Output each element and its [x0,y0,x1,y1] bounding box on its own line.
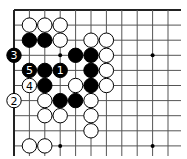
stone-disc [53,109,67,123]
star-point [58,144,62,148]
stone-disc [84,78,98,92]
stone-disc [99,78,113,92]
stone-disc [84,48,98,62]
star-point [58,53,62,57]
stone-disc [22,139,36,153]
white-stone [38,18,52,32]
black-stone: 3 [7,48,21,62]
white-stone [38,109,52,123]
white-stone [84,124,98,138]
move-number-label: 3 [11,49,18,62]
stone-disc [68,78,82,92]
stone-disc [99,63,113,77]
move-number-label: 2 [11,95,18,108]
white-stone: 2 [7,93,21,107]
stone-disc [84,63,98,77]
black-stone [53,93,67,107]
white-stone [84,93,98,107]
black-stone [68,48,82,62]
stone-disc [38,78,52,92]
white-stone [84,33,98,47]
white-stone [53,109,67,123]
stone-disc [84,93,98,107]
white-stone [38,139,52,153]
stone-disc [38,109,52,123]
star-point [151,144,155,148]
white-stone [22,18,36,32]
star-point [151,53,155,57]
stone-disc [84,109,98,123]
move-number-label: 4 [26,80,33,93]
black-stone [84,63,98,77]
white-stone [68,78,82,92]
black-stone [38,78,52,92]
stone-disc [38,63,52,77]
stone-disc [53,93,67,107]
black-stone [84,78,98,92]
stone-disc [53,18,67,32]
stone-disc [68,93,82,107]
stone-disc [38,33,52,47]
white-stone [84,109,98,123]
move-number-label: 1 [57,64,64,77]
stone-disc [99,48,113,62]
stone-disc [68,48,82,62]
white-stone [22,139,36,153]
white-stone [99,63,113,77]
white-stone [53,33,67,47]
black-stone: 5 [22,63,36,77]
stone-disc [38,139,52,153]
black-stone [22,33,36,47]
black-stone [38,33,52,47]
white-stone [99,78,113,92]
black-stone [68,93,82,107]
black-stone [84,48,98,62]
stone-disc [38,18,52,32]
white-stone [53,18,67,32]
black-stone: 1 [53,63,67,77]
move-number-label: 5 [26,64,33,77]
stone-disc [53,33,67,47]
stone-disc [22,33,36,47]
stone-disc [99,33,113,47]
white-stone [38,93,52,107]
white-stone: 4 [22,78,36,92]
stone-disc [84,33,98,47]
stone-disc [38,93,52,107]
go-board: 35142 [0,0,187,159]
stone-disc [84,124,98,138]
white-stone [99,33,113,47]
black-stone [38,63,52,77]
stone-disc [22,18,36,32]
white-stone [99,48,113,62]
